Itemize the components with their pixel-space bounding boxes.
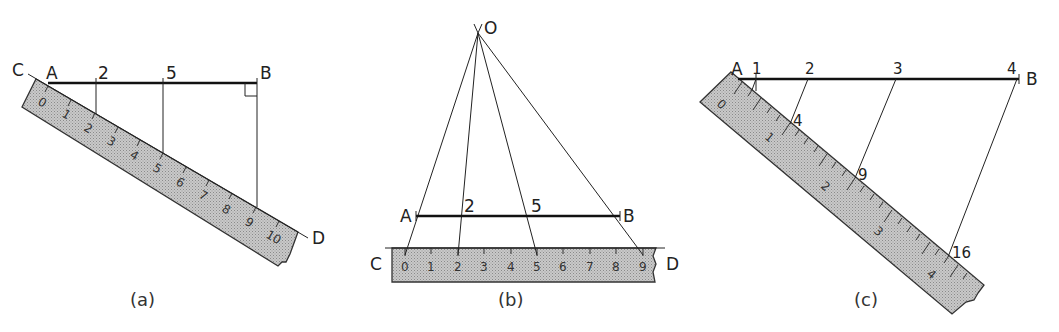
panel-a-mark-5: 5 [166, 63, 177, 83]
svg-text:7: 7 [586, 260, 594, 274]
panel-a-line-cd [28, 74, 308, 238]
panel-c-mark-4: 4 [1007, 60, 1017, 78]
svg-text:3: 3 [480, 260, 488, 274]
svg-text:2: 2 [454, 260, 462, 274]
panel-c-mark-2: 2 [805, 60, 815, 78]
panel-b: 0 1 2 3 4 5 6 7 8 9 O A 2 5 [370, 18, 679, 310]
proportional-division-diagram: 0 1 2 3 4 5 6 7 8 9 10 C A 2 5 B [0, 0, 1059, 332]
panel-b-label-c: C [370, 254, 382, 274]
panel-c: 0 1 2 3 4 A 1 2 3 4 B 4 9 16 (c) [700, 59, 1038, 314]
panel-a-label-d: D [312, 228, 325, 248]
panel-c-ruler-mark-9: 9 [858, 166, 868, 184]
svg-text:0: 0 [401, 260, 409, 274]
panel-c-link-1 [752, 79, 756, 90]
panel-c-mark-3: 3 [893, 60, 903, 78]
panel-a-right-angle-icon [245, 83, 257, 96]
panel-b-caption: (b) [498, 289, 523, 310]
svg-text:1: 1 [427, 260, 435, 274]
panel-c-label-a: A [731, 59, 743, 79]
panel-a-label-a: A [46, 63, 58, 83]
panel-c-label-b: B [1026, 69, 1038, 89]
panel-c-link-3 [855, 79, 896, 178]
panel-b-ray-5 [478, 33, 537, 255]
panel-a: 0 1 2 3 4 5 6 7 8 9 10 C A 2 5 B [12, 60, 325, 310]
panel-b-label-a: A [400, 206, 412, 226]
panel-a-label-c: C [12, 60, 24, 80]
panel-b-mark-5: 5 [531, 196, 542, 216]
panel-b-ray-0 [405, 33, 478, 255]
panel-c-ruler-mark-4: 4 [793, 112, 803, 130]
panel-b-label-b: B [623, 206, 635, 226]
panel-c-ruler-mark-16: 16 [952, 244, 971, 262]
panel-b-ruler: 0 1 2 3 4 5 6 7 8 9 [392, 248, 656, 282]
panel-c-link-4 [948, 79, 1017, 257]
svg-text:9: 9 [639, 260, 647, 274]
panel-a-caption: (a) [130, 289, 155, 310]
panel-a-mark-2: 2 [98, 63, 109, 83]
panel-b-label-o: O [484, 18, 497, 38]
svg-text:4: 4 [507, 260, 515, 274]
panel-b-ray-2 [458, 33, 478, 255]
panel-c-mark-1: 1 [752, 60, 762, 78]
panel-a-label-b: B [260, 63, 272, 83]
svg-text:5: 5 [533, 260, 541, 274]
panel-c-ruler: 0 1 2 3 4 [700, 72, 984, 314]
svg-text:8: 8 [612, 260, 620, 274]
panel-b-mark-2: 2 [464, 196, 475, 216]
panel-c-caption: (c) [854, 289, 878, 310]
panel-b-point-o-icon [474, 24, 482, 33]
svg-text:6: 6 [559, 260, 567, 274]
panel-b-ray-9 [478, 33, 643, 255]
panel-b-label-d: D [666, 254, 679, 274]
